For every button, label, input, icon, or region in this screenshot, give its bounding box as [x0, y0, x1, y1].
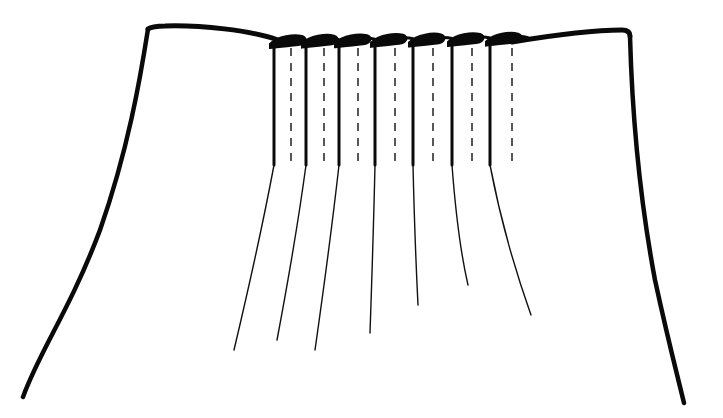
waistline-left [148, 26, 278, 40]
waistline-segment [516, 36, 528, 38]
waistline-segment [478, 36, 490, 38]
released-fold-line [370, 165, 375, 333]
left-side-edge [23, 29, 148, 397]
released-fold-line [413, 165, 418, 305]
waistline-segment [401, 37, 413, 39]
waistline-segment [439, 36, 452, 38]
released-fold-line [452, 165, 468, 285]
released-fold-line [315, 165, 339, 350]
waistline-right [512, 30, 630, 42]
pleat-illustration-svg [0, 0, 723, 418]
pleat-group [234, 33, 531, 350]
waistline-segment [332, 38, 339, 40]
right-side-edge [630, 36, 684, 403]
waistline-segment [300, 38, 306, 40]
released-fold-line [277, 165, 306, 340]
pleat-diagram [0, 0, 723, 418]
released-fold-line [234, 165, 274, 350]
released-fold-line [490, 165, 531, 315]
waistline-segment [365, 37, 375, 39]
